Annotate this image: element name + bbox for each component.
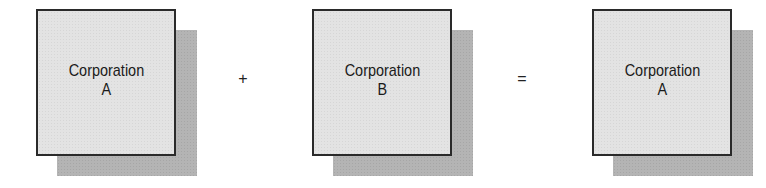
result-corporation-a-box: Corporation A <box>592 9 732 156</box>
corporation-b-box-group: Corporation B <box>312 9 473 176</box>
equals-operator: = <box>512 70 532 88</box>
corporation-a-box: Corporation A <box>36 9 176 156</box>
box-label-line1: Corporation <box>624 61 700 80</box>
result-corporation-a-box-group: Corporation A <box>592 9 753 176</box>
box-label-line1: Corporation <box>68 61 144 80</box>
box-label-line2: A <box>68 80 144 99</box>
box-label-line2: A <box>624 80 700 99</box>
box-label: Corporation B <box>344 61 420 99</box>
box-label-line2: B <box>344 80 420 99</box>
plus-operator: + <box>233 70 253 88</box>
corporation-a-box-group: Corporation A <box>36 9 197 176</box>
box-label: Corporation A <box>68 61 144 99</box>
corporation-b-box: Corporation B <box>312 9 452 156</box>
box-label-line1: Corporation <box>344 61 420 80</box>
box-label: Corporation A <box>624 61 700 99</box>
